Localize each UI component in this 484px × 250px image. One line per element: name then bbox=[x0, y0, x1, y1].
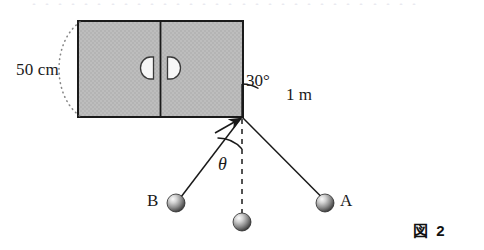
ball-b bbox=[167, 194, 185, 212]
figure-container: ・・・・・・・・・・・・・・・・・・・・・・・・・・・・・・ bbox=[0, 0, 484, 250]
door-group bbox=[78, 21, 243, 117]
label-ball-a: A bbox=[340, 192, 352, 209]
label-string-length: 1 m bbox=[286, 86, 312, 103]
ball-a bbox=[316, 194, 334, 212]
pendulum-balls bbox=[167, 194, 334, 231]
pendulum-door-diagram bbox=[0, 0, 484, 250]
pendulum-strings bbox=[181, 117, 321, 213]
label-ball-b: B bbox=[147, 192, 158, 209]
string-to-ball-b bbox=[181, 117, 242, 197]
label-angle-30: 30° bbox=[246, 72, 270, 89]
figure-caption: 図 2 bbox=[413, 219, 447, 240]
pivot-pointer-arrow bbox=[215, 119, 241, 134]
string-to-ball-a bbox=[242, 117, 321, 196]
ball-rest-position bbox=[233, 213, 251, 231]
label-angle-theta: θ bbox=[218, 155, 227, 173]
height-measure-dotted-arc bbox=[59, 22, 80, 116]
label-door-height: 50 cm bbox=[16, 61, 59, 78]
